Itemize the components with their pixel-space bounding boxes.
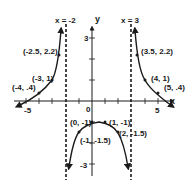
point-label-neg2-5: (-2.5, 2.2): [23, 47, 58, 56]
point-label-1: (1, -1): [109, 118, 131, 127]
point-label-neg4: (-4, .4): [12, 83, 36, 92]
y-axis-label: y: [95, 14, 100, 24]
tick-label-3: 3: [84, 34, 89, 43]
tick-label-5: 5: [155, 106, 160, 115]
point-label-5: (5, .4): [164, 83, 185, 92]
asymptote-left-label: x = -2: [55, 16, 76, 25]
point-label-2: (2, -1.5): [119, 129, 147, 138]
point-label-3-5: (3.5, 2.2): [141, 47, 173, 56]
point-label-4: (4, 1): [151, 74, 170, 83]
point-label-neg3: (-3, 1): [32, 74, 54, 83]
tick-label-0: 0: [86, 105, 91, 114]
x-axis-label: x: [170, 96, 175, 106]
point-label-neg1: (-1, -1.5): [80, 136, 111, 145]
curve-left-branch: [18, 30, 61, 106]
point-label-0: (0, -1): [70, 118, 92, 127]
tick-label-neg3: -3: [80, 161, 88, 170]
asymptote-right-label: x = 3: [121, 16, 140, 25]
tick-label-neg5: -5: [24, 106, 32, 115]
rational-function-graph: x = -2 x = 3 y x -5 0 5 3 -3 (-4, .4) (-…: [0, 0, 196, 184]
curve-right-branch: [135, 30, 172, 106]
